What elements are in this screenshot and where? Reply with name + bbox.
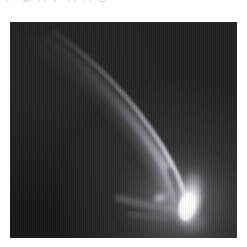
caption-text: P C A F A A B <box>6 0 109 5</box>
caption: P C A F A A B <box>0 0 247 9</box>
comet-graphic <box>10 22 237 238</box>
astronomical-image-panel <box>10 22 237 238</box>
